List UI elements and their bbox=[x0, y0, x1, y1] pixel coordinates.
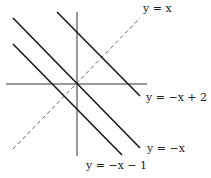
label-y-eq-neg-x: y = −x bbox=[147, 142, 185, 155]
line-y-eq-neg-x-plus-2 bbox=[57, 12, 140, 96]
label-y-eq-neg-x-plus-2: y = −x + 2 bbox=[146, 91, 207, 104]
label-y-eq-x: y = x bbox=[143, 2, 172, 15]
label-y-eq-neg-x-minus-1: y = −x − 1 bbox=[86, 159, 147, 172]
